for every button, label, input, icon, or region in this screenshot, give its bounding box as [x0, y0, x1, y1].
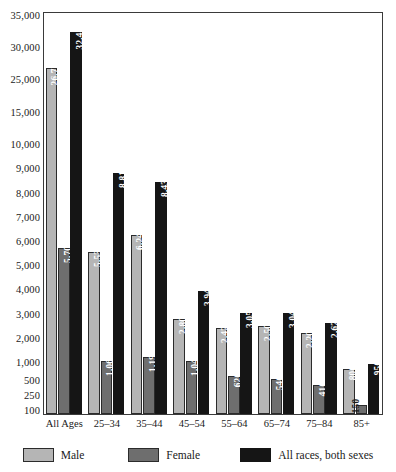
y-tick-label: 10,000: [11, 140, 40, 150]
bar-value-label: 8,430: [161, 175, 170, 197]
bar-group: 2,2004102,620: [299, 13, 342, 414]
bar: 1,060: [101, 361, 113, 414]
x-tick-label: 35–44: [128, 418, 171, 430]
x-tick-label: All Ages: [43, 418, 86, 430]
bar: 2,800: [173, 319, 185, 414]
y-tick-label: 250: [24, 391, 40, 401]
x-tick-label: 45–54: [171, 418, 214, 430]
bar: 410: [313, 385, 325, 414]
y-tick-label: 35,000: [11, 11, 40, 21]
legend-label-female: Female: [166, 449, 200, 461]
legend-item-male: Male: [23, 448, 85, 462]
bar-value-label: 8,810: [119, 166, 128, 188]
bar-value-label: 5,530: [94, 245, 103, 267]
bar-group: 2,5005403,040: [257, 13, 300, 414]
bar: 6,240: [131, 235, 143, 414]
bar: 950: [368, 364, 380, 414]
bar: 3,050: [240, 313, 252, 414]
bar: 2,420: [216, 328, 228, 414]
bar-value-label: 3,050: [246, 306, 255, 328]
bar: 3,040: [283, 313, 295, 414]
bar: 3,940: [198, 291, 210, 415]
bar: 5,530: [88, 252, 100, 414]
bar-value-label: 150: [352, 399, 361, 414]
bar: 540: [271, 379, 283, 414]
bar-value-label: 2,200: [306, 326, 315, 348]
y-tick-label: 30,000: [11, 43, 40, 53]
y-tick-label: 6,000: [16, 237, 40, 247]
legend-swatch-female: [128, 448, 159, 462]
legend-swatch-all-races: [240, 448, 271, 462]
bar: 1,190: [143, 357, 155, 414]
legend-item-all-races: All races, both sexes: [240, 448, 373, 462]
x-tick-label: 75–84: [298, 418, 341, 430]
bar-group: 2,4206203,050: [214, 13, 257, 414]
x-tick-label: 85+: [341, 418, 384, 430]
y-tick-label: 100: [24, 406, 40, 416]
bar-value-label: 3,040: [289, 306, 298, 328]
x-tick-label: 55–64: [213, 418, 256, 430]
bar-value-label: 2,420: [221, 321, 230, 343]
bar-value-label: 26,710: [51, 59, 60, 86]
bar-group: 5,5301,0608,810: [87, 13, 130, 414]
bar-value-label: 32,410: [76, 22, 85, 49]
bar-value-label: 800: [349, 366, 358, 381]
x-axis: All Ages25–3435–4445–5455–6465–7475–8485…: [43, 418, 383, 434]
bar-group: 800150950: [342, 13, 384, 414]
y-tick-label: 25,000: [11, 75, 40, 85]
bar-value-label: 2,800: [179, 312, 188, 334]
bar-value-label: 3,940: [204, 284, 213, 306]
legend-label-male: Male: [61, 449, 85, 461]
bar: 26,710: [46, 68, 58, 414]
bar-group: 2,8001,0403,940: [172, 13, 215, 414]
legend-item-female: Female: [128, 448, 200, 462]
y-tick-label: 500: [24, 376, 40, 386]
bar: 150: [356, 405, 368, 414]
bar-chart: 35,00030,00025,00015,00010,0009,0008,000…: [0, 0, 396, 472]
bar: 8,810: [113, 173, 125, 414]
bar: 620: [228, 376, 240, 414]
x-tick-label: 65–74: [256, 418, 299, 430]
legend-label-all-races: All races, both sexes: [278, 449, 373, 461]
bars-layer: 26,7105,70032,4105,5301,0608,8106,2401,1…: [44, 13, 382, 414]
y-tick-label: 3,000: [16, 310, 40, 320]
x-tick-label: 25–34: [86, 418, 129, 430]
y-tick-label: 2,000: [16, 334, 40, 344]
y-tick-label: 7,000: [16, 213, 40, 223]
bar: 1,040: [186, 361, 198, 414]
bar: 32,410: [70, 32, 82, 414]
plot-area: 26,7105,70032,4105,5301,0608,8106,2401,1…: [43, 12, 383, 415]
bar-value-label: 2,500: [264, 319, 273, 341]
y-tick-label: 8,000: [16, 189, 40, 199]
y-tick-label: 4,000: [16, 285, 40, 295]
bar: 8,430: [155, 182, 167, 414]
y-tick-label: 1,000: [16, 358, 40, 368]
bar-group: 26,7105,70032,410: [44, 13, 87, 414]
bar: 5,700: [58, 248, 70, 414]
bar-value-label: 2,620: [331, 316, 340, 338]
bar: 2,500: [258, 326, 270, 414]
bar-value-label: 950: [374, 361, 383, 376]
y-tick-label: 9,000: [16, 164, 40, 174]
bar: 2,620: [325, 323, 337, 414]
y-axis: 35,00030,00025,00015,00010,0009,0008,000…: [0, 0, 43, 425]
bar-value-label: 6,240: [136, 228, 145, 250]
bar-group: 6,2401,1908,430: [129, 13, 172, 414]
chart-legend: Male Female All races, both sexes: [0, 444, 396, 466]
bar: 2,200: [301, 333, 313, 414]
y-tick-label: 5,000: [16, 261, 40, 271]
legend-swatch-male: [23, 448, 54, 462]
y-tick-label: 15,000: [11, 108, 40, 118]
